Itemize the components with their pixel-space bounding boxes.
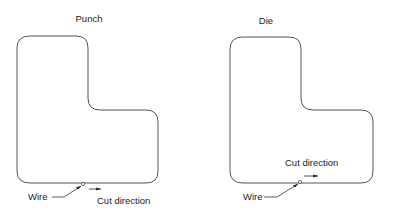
punch-panel: Punch Wire Cut direction [17, 13, 158, 206]
diagram-canvas: Punch Wire Cut direction Die Wire Cut di… [0, 0, 394, 224]
punch-wire-leader [52, 186, 81, 197]
punch-title: Punch [76, 13, 103, 24]
die-title: Die [259, 15, 273, 26]
punch-outline [17, 36, 158, 183]
die-cut-label: Cut direction [285, 157, 338, 168]
die-wire-label: Wire [243, 191, 263, 202]
punch-cut-label: Cut direction [97, 195, 150, 206]
punch-wire-label: Wire [28, 191, 48, 202]
die-wire-point [298, 180, 301, 183]
die-panel: Die Wire Cut direction [230, 15, 373, 202]
punch-wire-point [81, 182, 84, 185]
die-wire-leader [264, 184, 298, 197]
